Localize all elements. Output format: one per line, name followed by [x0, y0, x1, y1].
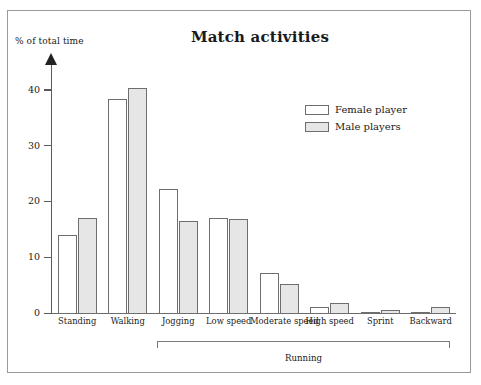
y-tick-label: 0 [14, 308, 40, 318]
bar-female [260, 273, 279, 314]
plot-area [52, 62, 456, 314]
y-tick-mark [44, 89, 52, 90]
legend-item-male: Male players [305, 118, 407, 135]
running-group-label: Running [157, 353, 450, 363]
y-tick-mark [44, 201, 52, 202]
y-tick-label: 10 [14, 252, 40, 262]
chart-title: Match activities [150, 28, 370, 46]
bar-female [58, 235, 77, 314]
legend-item-female: Female player [305, 101, 407, 118]
chart-figure: Match activities % of total time 0102030… [0, 0, 481, 385]
chart-legend: Female player Male players [305, 101, 407, 135]
y-tick-label: 20 [14, 196, 40, 206]
y-axis-title: % of total time [15, 36, 84, 46]
bar-female [411, 312, 430, 314]
y-tick-mark [44, 313, 52, 314]
bar-female [209, 218, 228, 314]
bar-female [310, 307, 329, 314]
bar-male [381, 310, 400, 314]
category-label: Backward [402, 317, 461, 326]
bar-female [361, 312, 380, 314]
bar-female [159, 189, 178, 314]
bar-male [229, 219, 248, 314]
bar-female [108, 99, 127, 314]
legend-swatch-female-icon [305, 105, 329, 115]
legend-label-male: Male players [335, 121, 401, 132]
bar-male [78, 218, 97, 314]
legend-label-female: Female player [335, 104, 407, 115]
bar-male [179, 221, 198, 314]
y-tick-mark [44, 257, 52, 258]
bar-male [128, 88, 147, 314]
y-tick-mark [44, 145, 52, 146]
bar-male [431, 307, 450, 314]
bar-male [280, 284, 299, 314]
running-group-bracket [157, 341, 450, 348]
y-tick-label: 40 [14, 85, 40, 95]
legend-swatch-male-icon [305, 122, 329, 132]
y-tick-label: 30 [14, 141, 40, 151]
bar-male [330, 303, 349, 314]
